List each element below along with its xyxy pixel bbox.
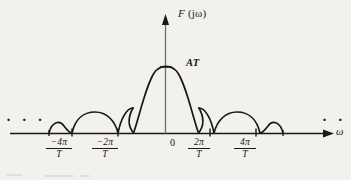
tick-label-minus-4pi-over-T: −4π T	[46, 137, 72, 159]
y-axis	[162, 14, 169, 134]
tick-label-minus-2pi-over-T: −2π T	[92, 137, 118, 159]
tick-denominator: T	[46, 149, 72, 160]
y-axis-label: F (jω)	[178, 8, 206, 19]
scan-artifact	[6, 174, 22, 176]
tick-denominator: T	[188, 149, 210, 160]
tick-numerator: −2π	[92, 137, 118, 148]
tick-label-plus-2pi-over-T: 2π T	[188, 137, 210, 159]
tick-label-plus-4pi-over-T: 4π T	[234, 137, 256, 159]
origin-label: 0	[170, 138, 175, 148]
tick-numerator: 4π	[234, 137, 256, 148]
ellipsis-left: · · ·	[6, 113, 46, 128]
tick-numerator: −4π	[46, 137, 72, 148]
tick-denominator: T	[234, 149, 256, 160]
figure-sinc-spectrum: F (jω) AT ω 0 · · · · · · −4π T −2π T 2π…	[0, 0, 351, 180]
tick-denominator: T	[92, 149, 118, 160]
x-axis-ticks	[72, 129, 256, 137]
peak-amplitude-label: AT	[186, 58, 200, 69]
tick-numerator: 2π	[188, 137, 210, 148]
ellipsis-right: · · ·	[322, 113, 351, 143]
scan-artifact	[80, 175, 90, 177]
y-axis-label-argument: (jω)	[188, 7, 206, 19]
y-axis-label-symbol: F	[178, 7, 185, 19]
scan-artifact	[44, 175, 74, 177]
